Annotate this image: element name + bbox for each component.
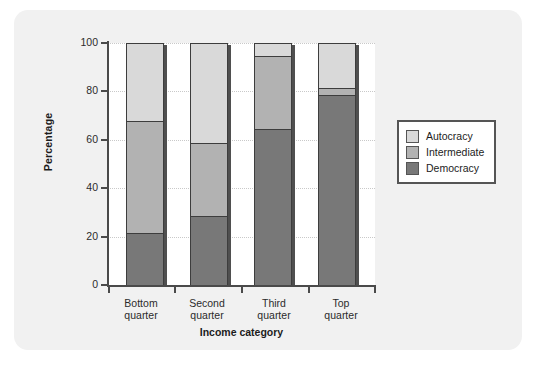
bar-third-quarter[interactable]	[254, 43, 292, 285]
x-tick-mark-1	[174, 287, 176, 293]
bar-shadow-top-quarter	[356, 45, 359, 285]
category-label-bottom-quarter: Bottom quarter	[105, 297, 177, 321]
bar-segment-autocracy[interactable]	[127, 44, 163, 121]
y-axis-line	[107, 41, 109, 287]
x-tick-mark-4	[374, 287, 376, 293]
bar-segment-intermediate[interactable]	[319, 88, 355, 95]
bar-bottom-quarter[interactable]	[126, 43, 164, 285]
bar-second-quarter[interactable]	[190, 43, 228, 285]
y-axis-title: Percentage	[42, 82, 54, 202]
y-tick-mark-40	[101, 187, 107, 189]
bar-shadow-third-quarter	[292, 45, 295, 285]
bar-segment-democracy[interactable]	[319, 95, 355, 286]
legend-label-democracy: Democracy	[426, 162, 479, 174]
legend-item-democracy[interactable]: Democracy	[406, 160, 484, 176]
legend-label-intermediate: Intermediate	[426, 146, 484, 158]
y-tick-mark-80	[101, 90, 107, 92]
category-label-top-quarter: Top quarter	[305, 297, 377, 321]
bar-shadow-bottom-quarter	[164, 45, 167, 285]
category-label-third-quarter: Third quarter	[238, 297, 310, 321]
y-tick-label-60: 60	[72, 133, 98, 145]
bar-top-quarter[interactable]	[318, 43, 356, 285]
y-tick-mark-100	[101, 42, 107, 44]
plot-area	[108, 43, 375, 285]
bar-segment-democracy[interactable]	[255, 129, 291, 286]
category-label-line1: Third	[238, 297, 310, 309]
legend-swatch-democracy	[406, 162, 419, 175]
legend-item-intermediate[interactable]: Intermediate	[406, 144, 484, 160]
y-tick-label-20: 20	[72, 230, 98, 242]
x-tick-mark-2	[241, 287, 243, 293]
y-tick-label-40: 40	[72, 181, 98, 193]
category-label-line2: quarter	[238, 309, 310, 321]
bar-segment-intermediate[interactable]	[191, 143, 227, 216]
bar-shadow-second-quarter	[228, 45, 231, 285]
chart-legend: Autocracy Intermediate Democracy	[397, 120, 496, 184]
category-label-line1: Top	[305, 297, 377, 309]
bar-segment-autocracy[interactable]	[191, 44, 227, 143]
category-label-line1: Bottom	[105, 297, 177, 309]
x-axis-title: Income category	[108, 326, 375, 338]
figure-panel: 100 80 60 40 20 0 Bottom quarter Second …	[14, 10, 522, 350]
y-tick-label-80: 80	[72, 84, 98, 96]
category-label-line2: quarter	[105, 309, 177, 321]
legend-label-autocracy: Autocracy	[426, 130, 473, 142]
legend-item-autocracy[interactable]: Autocracy	[406, 128, 484, 144]
category-label-line2: quarter	[305, 309, 377, 321]
bar-segment-autocracy[interactable]	[255, 44, 291, 56]
y-tick-mark-60	[101, 139, 107, 141]
y-tick-label-100: 100	[72, 36, 98, 48]
y-tick-label-0: 0	[72, 278, 98, 290]
x-tick-mark-0	[108, 287, 110, 293]
category-label-line1: Second	[171, 297, 243, 309]
x-tick-mark-3	[308, 287, 310, 293]
bar-segment-autocracy[interactable]	[319, 44, 355, 88]
bar-segment-intermediate[interactable]	[127, 121, 163, 232]
category-label-second-quarter: Second quarter	[171, 297, 243, 321]
category-label-line2: quarter	[171, 309, 243, 321]
legend-swatch-intermediate	[406, 146, 419, 159]
y-tick-mark-0	[101, 284, 107, 286]
bar-segment-democracy[interactable]	[127, 233, 163, 286]
legend-swatch-autocracy	[406, 130, 419, 143]
y-tick-mark-20	[101, 236, 107, 238]
bar-segment-intermediate[interactable]	[255, 56, 291, 129]
bar-segment-democracy[interactable]	[191, 216, 227, 286]
